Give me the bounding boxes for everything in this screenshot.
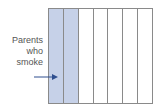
fraction-rectangle	[48, 8, 153, 104]
label-line-2: who	[12, 46, 43, 57]
strip-3	[79, 9, 94, 103]
arrow-right-icon	[34, 73, 58, 81]
strip-4	[94, 9, 109, 103]
strip-5	[108, 9, 123, 103]
label-line-3: smoke	[12, 57, 43, 68]
strip-shaded-2	[64, 9, 79, 103]
strip-shaded-1	[49, 9, 64, 103]
strip-7	[138, 9, 152, 103]
parents-who-smoke-label: Parents who smoke	[12, 35, 43, 68]
strip-6	[123, 9, 138, 103]
label-line-1: Parents	[12, 35, 43, 46]
